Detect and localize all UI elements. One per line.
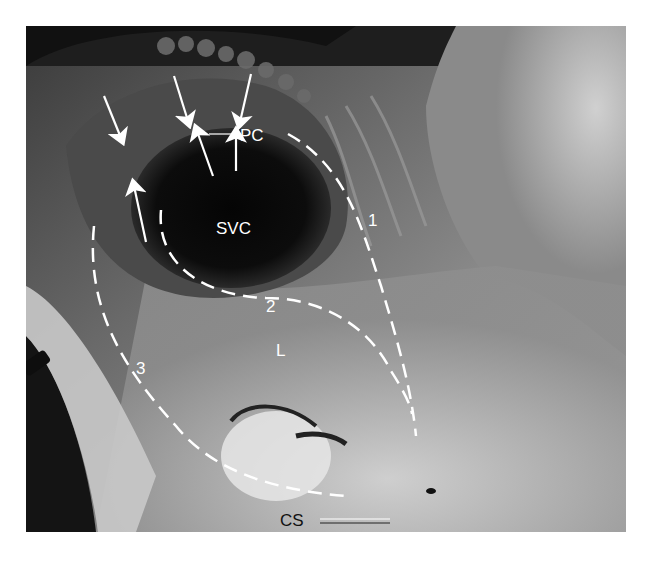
photo-canvas: PC SVC 1 2 L 3 CS [26,26,626,532]
label-3: 3 [136,359,145,378]
svc-opening [131,128,331,288]
label-pc: PC [240,126,264,145]
anatomical-photo: PC SVC 1 2 L 3 CS [26,26,626,532]
label-svc: SVC [216,219,251,238]
label-2: 2 [266,297,275,316]
label-1: 1 [368,211,377,230]
label-l: L [276,341,285,360]
label-cs: CS [280,511,304,530]
